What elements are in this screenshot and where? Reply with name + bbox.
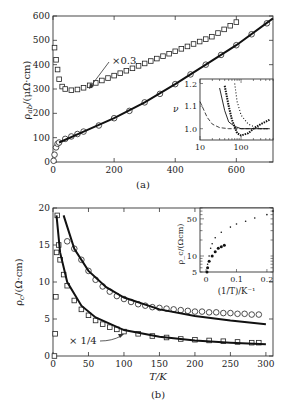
x-tick-label: 0 bbox=[50, 359, 56, 369]
data-point-square bbox=[72, 298, 77, 303]
x-tick-label: 600 bbox=[228, 165, 245, 175]
panel-b: 05010015020025030005101520 00.10.251050(… bbox=[13, 203, 275, 400]
data-point-square bbox=[118, 71, 123, 76]
data-point-square bbox=[54, 250, 59, 255]
y-tick-label: 400 bbox=[33, 60, 50, 70]
data-point-square bbox=[167, 51, 172, 56]
inset-y-tick-label: 10 bbox=[187, 252, 197, 261]
inset-a-ylabel: ν bbox=[173, 104, 179, 114]
y-tick-label: 500 bbox=[33, 35, 50, 45]
y-tick-label: 5 bbox=[44, 314, 50, 324]
panel-b-xlabel: T/K bbox=[149, 371, 167, 382]
inset-point bbox=[207, 263, 209, 265]
data-point-circle bbox=[206, 310, 212, 316]
data-point-square bbox=[106, 76, 111, 81]
panel-b-ylabel: ρc/(Ω·cm) bbox=[13, 258, 26, 306]
x-tick-label: 250 bbox=[222, 359, 239, 369]
inset-point bbox=[245, 220, 247, 222]
data-point-square bbox=[130, 66, 135, 71]
data-point-square bbox=[69, 88, 74, 93]
data-point-square bbox=[155, 56, 160, 61]
inset-point bbox=[272, 210, 274, 212]
y-tick-label: 0 bbox=[44, 157, 50, 167]
data-point-square bbox=[100, 78, 105, 83]
data-point-circle bbox=[52, 152, 58, 158]
data-point-square bbox=[52, 45, 57, 50]
panel-b-annotation: × 1/4 bbox=[69, 335, 97, 346]
data-point-circle bbox=[213, 310, 219, 316]
inset-x-tick-label: 10 bbox=[195, 143, 205, 152]
data-point-square bbox=[142, 61, 147, 66]
inset-y-tick-label: 1.2 bbox=[184, 80, 197, 89]
data-point-square bbox=[100, 322, 105, 327]
inset-point bbox=[230, 226, 232, 228]
y-tick-label: 15 bbox=[39, 240, 51, 250]
data-point-square bbox=[55, 67, 60, 72]
x-tick-label: 100 bbox=[115, 359, 132, 369]
data-point-square bbox=[81, 85, 86, 90]
panel-b-inset: 00.10.251050(1/T)/K⁻¹ρ_c/(Ωcm) bbox=[176, 208, 274, 296]
data-point-square bbox=[228, 23, 233, 28]
x-tick-label: 200 bbox=[186, 359, 203, 369]
inset-y-tick-label: 50 bbox=[187, 215, 197, 224]
data-point-circle bbox=[51, 158, 57, 164]
data-point-circle bbox=[64, 239, 70, 245]
inset-point bbox=[217, 247, 220, 250]
data-point-square bbox=[234, 20, 239, 25]
x-tick-label: 200 bbox=[106, 165, 123, 175]
y-tick-label: 20 bbox=[39, 203, 51, 213]
inset-x-tick-label: 0.2 bbox=[261, 275, 274, 284]
data-point-circle bbox=[228, 310, 234, 316]
data-point-square bbox=[136, 64, 141, 69]
data-point-square bbox=[191, 42, 196, 47]
inset-point bbox=[220, 231, 222, 233]
data-point-square bbox=[179, 47, 184, 52]
inset-point bbox=[206, 266, 209, 269]
data-point-circle bbox=[185, 308, 191, 314]
x-tick-label: 50 bbox=[83, 359, 95, 369]
data-point-square bbox=[124, 68, 129, 73]
data-point-square bbox=[173, 49, 178, 54]
annotation-arrow-b bbox=[100, 336, 121, 341]
inset-b-ylabel: ρ_c/(Ωcm) bbox=[176, 224, 185, 265]
data-point-square bbox=[63, 87, 68, 92]
data-point-circle bbox=[235, 311, 241, 317]
inset-y-tick-label: 5 bbox=[192, 268, 197, 277]
x-tick-label: 400 bbox=[167, 165, 184, 175]
data-point-square bbox=[210, 34, 215, 39]
panel-a-annotation: ×0.3 bbox=[112, 55, 136, 66]
data-point-square bbox=[53, 332, 58, 337]
panel-b-caption: (b) bbox=[151, 389, 165, 400]
data-point-square bbox=[52, 354, 57, 359]
panel-a-inset: 101001.01.11.2ν bbox=[173, 79, 273, 152]
data-point-square bbox=[185, 44, 190, 49]
inset-point bbox=[220, 245, 223, 248]
inset-point bbox=[208, 255, 210, 257]
y-tick-label: 10 bbox=[39, 277, 51, 287]
x-tick-label: 300 bbox=[257, 359, 274, 369]
inset-point bbox=[205, 271, 208, 274]
data-point-circle bbox=[199, 309, 205, 315]
data-point-circle bbox=[221, 310, 227, 316]
x-tick-label: 150 bbox=[151, 359, 168, 369]
inset-point bbox=[214, 237, 216, 239]
inset-b-xlabel: (1/T)/K⁻¹ bbox=[218, 286, 256, 296]
y-tick-label: 0 bbox=[44, 351, 50, 361]
data-point-circle bbox=[249, 312, 255, 318]
inset-point bbox=[236, 223, 238, 225]
inset-y-tick-label: 1.1 bbox=[184, 102, 197, 111]
data-point-square bbox=[57, 77, 62, 82]
x-tick-label: 0 bbox=[50, 165, 56, 175]
data-point-square bbox=[197, 39, 202, 44]
data-point-circle bbox=[256, 312, 262, 318]
inset-point bbox=[254, 217, 256, 219]
inset-y-tick-label: 1.0 bbox=[184, 125, 197, 134]
figure: 02004006000100200300400500600 101001.01.… bbox=[0, 0, 286, 407]
y-tick-label: 100 bbox=[33, 133, 50, 143]
inset-point bbox=[211, 255, 214, 258]
y-tick-label: 300 bbox=[33, 84, 50, 94]
data-point-square bbox=[203, 37, 208, 42]
inset-point bbox=[223, 244, 226, 247]
inset-point bbox=[210, 247, 212, 249]
data-point-square bbox=[75, 87, 80, 92]
